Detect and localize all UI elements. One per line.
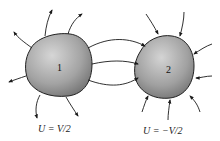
field-line-arrow-icon bbox=[45, 10, 52, 36]
field-line-arrow-icon bbox=[146, 14, 158, 34]
field-line-arrow-icon bbox=[194, 44, 212, 54]
field-line-arrow-icon bbox=[88, 78, 138, 85]
field-line-arrow-icon bbox=[66, 97, 78, 116]
conductor-1-potential: U = V/2 bbox=[38, 123, 71, 134]
diagram-canvas: 1 2 U = V/2 U = −V/2 bbox=[0, 0, 220, 141]
field-line-arrow-icon bbox=[88, 40, 145, 49]
field-line-arrow-icon bbox=[168, 100, 170, 120]
field-line-arrow-icon bbox=[196, 76, 212, 78]
conductor-1-label: 1 bbox=[57, 62, 62, 73]
field-line-arrow-icon bbox=[92, 61, 138, 64]
field-line-arrow-icon bbox=[9, 76, 26, 82]
field-line-arrow-icon bbox=[14, 32, 32, 48]
field-line-arrow-icon bbox=[68, 14, 82, 34]
field-line-arrow-icon bbox=[190, 96, 200, 112]
conductor-2-label: 2 bbox=[166, 64, 171, 75]
conductor-2-potential: U = −V/2 bbox=[143, 125, 183, 136]
field-line-arrow-icon bbox=[180, 12, 184, 36]
field-line-arrow-icon bbox=[36, 95, 40, 118]
field-line-arrow-icon bbox=[142, 96, 148, 112]
